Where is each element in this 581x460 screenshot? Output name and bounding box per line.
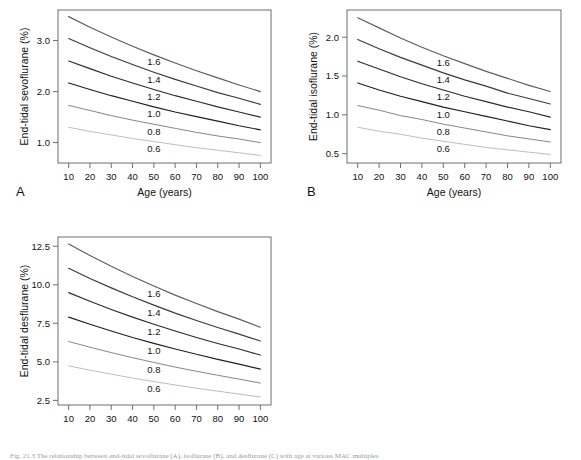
figure-caption-text: Fig. 21.3 The relationship between end-t… — [0, 452, 581, 460]
x-tick-label: 80 — [212, 171, 223, 182]
curve-1-2 — [69, 61, 261, 117]
curve-1-6 — [69, 244, 261, 327]
x-tick-label: 100 — [252, 171, 268, 182]
x-tick-label: 100 — [252, 413, 268, 424]
y-tick-label: 0.5 — [326, 148, 339, 159]
y-axis-title: End-tidal isoflurane (%) — [307, 32, 319, 141]
x-tick-label: 10 — [63, 413, 74, 424]
plot-frame — [58, 10, 271, 163]
x-tick-label: 80 — [212, 413, 223, 424]
curve-label-1-4: 1.4 — [437, 74, 450, 85]
curve-label-1-2: 1.2 — [437, 91, 450, 102]
curve-label-1-0: 1.0 — [147, 108, 160, 119]
curve-label-0-8: 0.8 — [437, 126, 450, 137]
y-tick-label: 1.0 — [37, 137, 50, 148]
panel-letter-b: B — [307, 184, 316, 199]
y-tick-label: 2.0 — [37, 86, 50, 97]
x-tick-label: 80 — [502, 171, 513, 182]
curve-label-1-0: 1.0 — [437, 109, 450, 120]
x-tick-label: 30 — [106, 413, 117, 424]
y-tick-label: 2.0 — [326, 32, 339, 43]
x-tick-label: 10 — [63, 171, 74, 182]
plot-frame — [347, 10, 561, 163]
x-tick-label: 40 — [127, 171, 138, 182]
figure-caption: Fig. 21.3 The relationship between end-t… — [0, 452, 581, 460]
panel-b: 0.51.01.52.0102030405060708090100Age (ye… — [290, 0, 581, 200]
y-axis-title: End-tidal desflurane (%) — [18, 265, 30, 378]
curve-1-6 — [358, 18, 551, 92]
curve-label-0-6: 0.6 — [147, 143, 160, 154]
panel-c: 2.55.07.510.012.5102030405060708090100Ag… — [0, 200, 290, 425]
x-tick-label: 70 — [191, 171, 202, 182]
curve-label-1-0: 1.0 — [147, 345, 160, 356]
x-axis-title: Age (years) — [137, 186, 191, 198]
curve-1-6 — [69, 17, 261, 92]
y-axis-title: End-tidal sevoflurane (%) — [18, 28, 30, 146]
x-tick-label: 60 — [459, 171, 470, 182]
x-tick-label: 50 — [438, 171, 449, 182]
y-tick-label: 7.5 — [37, 318, 50, 329]
curve-label-0-8: 0.8 — [147, 364, 160, 375]
x-tick-label: 90 — [234, 413, 245, 424]
y-tick-label: 5.0 — [37, 356, 50, 367]
x-tick-label: 70 — [191, 413, 202, 424]
y-tick-label: 12.5 — [32, 241, 51, 252]
x-tick-label: 100 — [542, 171, 558, 182]
curve-label-1-6: 1.6 — [147, 56, 160, 67]
y-tick-label: 3.0 — [37, 35, 50, 46]
curve-label-1-4: 1.4 — [147, 307, 160, 318]
x-tick-label: 20 — [374, 171, 385, 182]
plot-frame — [58, 237, 271, 405]
x-tick-label: 10 — [352, 171, 363, 182]
y-tick-label: 1.0 — [326, 109, 339, 120]
x-tick-label: 90 — [234, 171, 245, 182]
curve-0-6 — [69, 127, 261, 155]
curve-1-0 — [69, 83, 261, 130]
y-tick-label: 2.5 — [37, 395, 50, 406]
x-tick-label: 40 — [417, 171, 428, 182]
x-tick-label: 20 — [85, 413, 96, 424]
x-axis-title: Age (years) — [427, 186, 481, 198]
curve-0-6 — [358, 127, 551, 154]
panel-a: 1.02.03.0102030405060708090100Age (years… — [0, 0, 290, 200]
x-tick-label: 90 — [524, 171, 535, 182]
curve-label-1-4: 1.4 — [147, 74, 160, 85]
y-tick-label: 10.0 — [32, 279, 51, 290]
x-tick-label: 60 — [170, 413, 181, 424]
x-tick-label: 50 — [149, 413, 160, 424]
curve-label-1-2: 1.2 — [147, 326, 160, 337]
curve-label-1-6: 1.6 — [147, 288, 160, 299]
x-tick-label: 20 — [85, 171, 96, 182]
x-tick-label: 30 — [106, 171, 117, 182]
x-tick-label: 40 — [127, 413, 138, 424]
curve-0-6 — [69, 366, 261, 397]
panel-letter-a: A — [16, 184, 25, 199]
curve-label-1-6: 1.6 — [437, 57, 450, 68]
x-tick-label: 70 — [481, 171, 492, 182]
curve-label-0-6: 0.6 — [147, 383, 160, 394]
curve-1-2 — [358, 61, 551, 117]
curve-1-0 — [358, 83, 551, 130]
x-tick-label: 60 — [170, 171, 181, 182]
curve-label-0-8: 0.8 — [147, 126, 160, 137]
x-tick-label: 30 — [395, 171, 406, 182]
y-tick-label: 1.5 — [326, 70, 339, 81]
curve-label-0-6: 0.6 — [437, 143, 450, 154]
curve-label-1-2: 1.2 — [147, 91, 160, 102]
curve-1-0 — [69, 317, 261, 369]
x-tick-label: 50 — [149, 171, 160, 182]
